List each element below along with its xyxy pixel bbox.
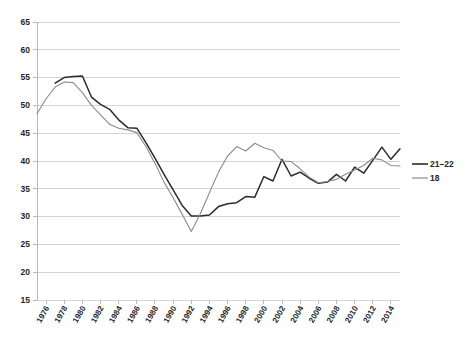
- y-tick-label: 60: [21, 45, 31, 55]
- x-tick-label: 1980: [71, 304, 88, 324]
- x-tick-label: 1990: [162, 304, 179, 324]
- y-tick-label: 30: [21, 211, 31, 221]
- x-tick-label: 1994: [198, 304, 215, 324]
- y-tick-label: 55: [21, 72, 31, 82]
- x-tick-label: 2004: [289, 304, 306, 324]
- x-tick-label: 1982: [89, 304, 106, 324]
- y-tick-label: 15: [21, 295, 31, 305]
- data-series: [37, 76, 400, 232]
- x-tick-label: 2006: [307, 304, 324, 324]
- x-tick-label: 1978: [53, 304, 70, 324]
- chart-container: 1520253035404550556065 19761978198019821…: [0, 0, 466, 339]
- x-tick-label: 2010: [343, 304, 360, 324]
- x-tick-label: 1996: [216, 304, 233, 324]
- x-tick-label: 1992: [180, 304, 197, 324]
- y-tick-label: 25: [21, 239, 31, 249]
- y-tick-label: 45: [21, 128, 31, 138]
- series-line-18: [37, 82, 400, 232]
- x-tick-label: 1976: [35, 304, 52, 324]
- x-axis-tick-labels: 1976197819801982198419861988199019921994…: [35, 300, 397, 324]
- line-chart: 1520253035404550556065 19761978198019821…: [0, 0, 466, 339]
- y-axis-tick-labels: 1520253035404550556065: [21, 17, 37, 305]
- x-tick-label: 2012: [361, 304, 378, 324]
- x-tick-label: 2000: [252, 304, 269, 324]
- legend-label: 21–22: [430, 159, 454, 169]
- legend-label: 18: [430, 173, 440, 183]
- x-tick-label: 1986: [125, 304, 142, 324]
- gridlines: [37, 22, 400, 300]
- x-tick-label: 1984: [107, 304, 124, 324]
- y-tick-label: 35: [21, 184, 31, 194]
- x-tick-label: 1998: [234, 304, 251, 324]
- x-tick-label: 2002: [271, 304, 288, 324]
- chart-legend: 21–2218: [412, 159, 454, 183]
- y-tick-label: 65: [21, 17, 31, 27]
- x-tick-label: 2008: [325, 304, 342, 324]
- y-tick-label: 20: [21, 267, 31, 277]
- x-tick-label: 2014: [379, 304, 396, 324]
- y-tick-label: 40: [21, 156, 31, 166]
- x-tick-label: 1988: [144, 304, 161, 324]
- y-tick-label: 50: [21, 100, 31, 110]
- series-line-21-22: [55, 76, 400, 216]
